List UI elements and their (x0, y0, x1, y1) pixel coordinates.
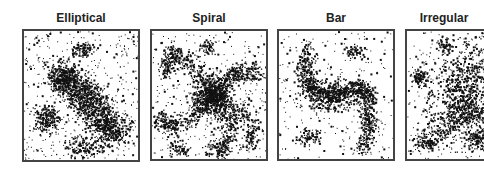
galaxy-image-irregular (405, 29, 484, 161)
panel-title: Spiral (150, 11, 268, 25)
barred-galaxy-graphic (279, 31, 393, 159)
spiral-galaxy-graphic (152, 31, 266, 159)
irregular-galaxy-graphic (407, 31, 484, 159)
elliptical-galaxy-graphic (24, 31, 138, 160)
galaxy-image-bar (277, 29, 395, 161)
panel-title: Bar (277, 11, 395, 25)
panel-title: Irregular (385, 11, 484, 25)
panel-title: Elliptical (22, 11, 140, 25)
galaxy-image-elliptical (22, 29, 140, 162)
galaxy-image-spiral (150, 29, 268, 161)
